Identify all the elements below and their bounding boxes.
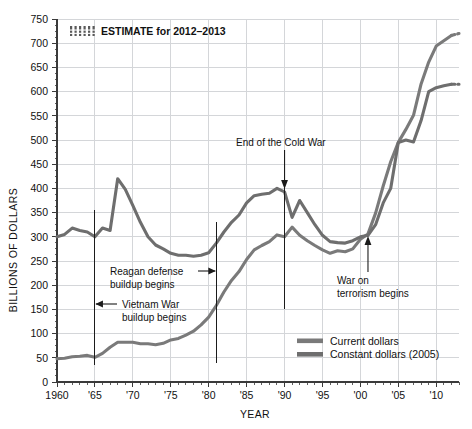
y-tick-550: 550 — [30, 110, 48, 122]
legend-label-current: Current dollars — [330, 335, 399, 347]
y-axis-title: BILLIONS OF DOLLARS — [7, 188, 19, 312]
legend-swatch-current — [297, 339, 323, 344]
event-markers — [95, 150, 371, 365]
x-axis-tick-labels: 1960'65'70'75'80'85'90'95'00'05'10 — [45, 389, 443, 401]
x-tick-1975: '75 — [164, 389, 178, 401]
terrorism-annotation-line1: War on — [337, 275, 369, 286]
x-tick-1970: '70 — [126, 389, 140, 401]
estimate-key-label: ESTIMATE for 2012–2013 — [101, 25, 226, 37]
vietnam-arrowhead — [95, 301, 103, 308]
y-tick-150: 150 — [30, 303, 48, 315]
y-tick-250: 250 — [30, 255, 48, 267]
chart-canvas: 0501001502002503003504004505005506006507… — [0, 0, 472, 429]
estimate-key: ESTIMATE for 2012–2013 — [69, 25, 226, 37]
legend: Current dollars Constant dollars (2005) — [297, 335, 439, 361]
series-line-constant-dollars — [57, 84, 451, 256]
cold-war-annotation: End of the Cold War — [236, 137, 326, 148]
y-tick-450: 450 — [30, 158, 48, 170]
legend-label-constant: Constant dollars (2005) — [330, 348, 439, 360]
x-tick-1980: '80 — [202, 389, 216, 401]
vietnam-annotation-line1: Vietnam War — [122, 299, 180, 310]
y-axis-tick-labels: 0501001502002503003504004505005506006507… — [30, 13, 48, 388]
x-axis-title: YEAR — [240, 408, 270, 420]
y-tick-650: 650 — [30, 61, 48, 73]
y-tick-100: 100 — [30, 327, 48, 339]
annotations: Reagan defense buildup begins Vietnam Wa… — [110, 137, 409, 323]
cold-war-arrowhead — [281, 180, 288, 189]
x-tick-1985: '85 — [240, 389, 254, 401]
reagan-annotation-line1: Reagan defense — [110, 266, 184, 277]
x-tick-1965: '65 — [88, 389, 102, 401]
y-tick-200: 200 — [30, 279, 48, 291]
reagan-annotation-line2: buildup begins — [110, 279, 175, 290]
x-tick-1990: '90 — [278, 389, 292, 401]
terrorism-annotation-line2: terrorism begins — [337, 288, 409, 299]
y-tick-700: 700 — [30, 37, 48, 49]
y-tick-300: 300 — [30, 231, 48, 243]
y-tick-500: 500 — [30, 134, 48, 146]
y-tick-400: 400 — [30, 182, 48, 194]
y-tick-350: 350 — [30, 206, 48, 218]
series-estimate-current-dollars — [451, 34, 459, 36]
x-tick-2005: '05 — [391, 389, 405, 401]
defense-spending-chart: 0501001502002503003504004505005506006507… — [0, 0, 472, 429]
estimate-hatch-swatch — [69, 26, 96, 36]
x-tick-2000: '00 — [354, 389, 368, 401]
vietnam-annotation-line2: buildup begins — [122, 312, 187, 323]
legend-swatch-constant — [297, 352, 323, 357]
reagan-arrowhead — [208, 268, 216, 275]
x-tick-1995: '95 — [316, 389, 330, 401]
y-tick-750: 750 — [30, 13, 48, 25]
y-tick-50: 50 — [36, 352, 48, 364]
y-tick-600: 600 — [30, 85, 48, 97]
x-tick-1960: 1960 — [45, 389, 69, 401]
x-tick-2010: '10 — [429, 389, 443, 401]
y-tick-0: 0 — [42, 376, 48, 388]
